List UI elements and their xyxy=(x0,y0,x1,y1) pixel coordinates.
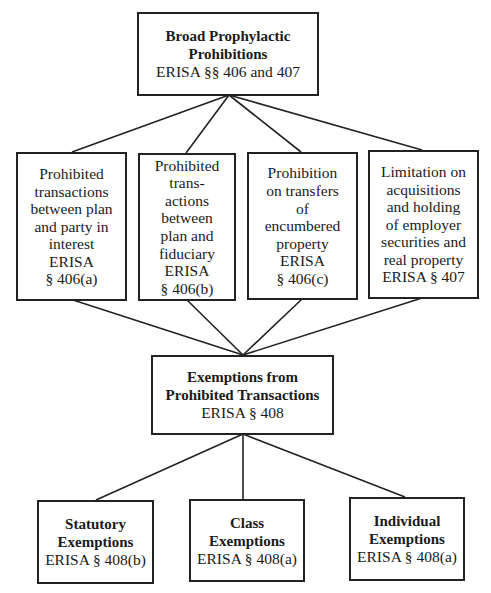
connector-hub-to-statutory xyxy=(96,434,243,500)
exemption-box-statutory: Statutory Exemptions ERISA § 408(b) xyxy=(37,500,154,584)
prohibition-406a-line: between plan xyxy=(30,200,112,218)
hub-subtitle: ERISA § 408 xyxy=(201,404,284,422)
prohibition-box-407: Limitation on acquisitions and holding o… xyxy=(368,150,479,299)
individual-title-line-2: Exemptions xyxy=(369,530,445,548)
prohibition-407-line: securities and xyxy=(381,233,466,251)
prohibition-406c-line: of xyxy=(296,200,309,218)
root-box-broad-prophylactic-prohibitions: Broad Prophylactic Prohibitions ERISA §§… xyxy=(137,12,319,96)
prohibition-box-406b: Prohibited trans- actions between plan a… xyxy=(138,153,236,301)
prohibition-406a-line: Prohibited xyxy=(39,165,104,183)
prohibition-406b-line: plan and xyxy=(161,227,214,245)
class-title-line-2: Exemptions xyxy=(209,532,285,550)
statutory-title-line-2: Exemptions xyxy=(58,533,134,551)
hub-title-line-2: Prohibited Transactions xyxy=(166,386,320,404)
root-title-line-2: Prohibitions xyxy=(189,45,268,63)
prohibition-406c-line: encumbered xyxy=(265,217,341,235)
prohibition-407-line: of employer xyxy=(386,216,461,234)
prohibition-406c-line: on transfers xyxy=(266,182,339,200)
connector-407-to-hub xyxy=(243,298,422,355)
connector-406a-to-hub xyxy=(73,300,243,355)
prohibition-407-line: ERISA § 407 xyxy=(382,268,465,286)
root-subtitle: ERISA §§ 406 and 407 xyxy=(156,63,300,81)
exemptions-hub-box: Exemptions from Prohibited Transactions … xyxy=(151,355,334,435)
prohibition-406c-line: § 406(c) xyxy=(276,270,328,288)
hub-title-line-1: Exemptions from xyxy=(187,368,298,386)
prohibition-407-line: real property xyxy=(384,251,464,269)
class-subtitle: ERISA § 408(a) xyxy=(197,550,297,568)
prohibition-406c-line: property xyxy=(276,235,329,253)
prohibition-406b-line: Prohibited xyxy=(155,157,220,175)
prohibition-406b-line: ERISA xyxy=(165,262,210,280)
connector-root-to-406c xyxy=(229,95,301,152)
connector-root-to-407 xyxy=(229,95,422,150)
prohibition-407-line: Limitation on xyxy=(381,163,466,181)
prohibition-406c-line: ERISA xyxy=(280,252,325,270)
connector-406c-to-hub xyxy=(243,299,302,355)
individual-title-line-1: Individual xyxy=(374,512,441,530)
prohibition-box-406c: Prohibition on transfers of encumbered p… xyxy=(247,152,358,300)
individual-subtitle: ERISA § 408(a) xyxy=(357,548,457,566)
prohibition-406b-line: actions xyxy=(165,192,209,210)
prohibition-406a-line: transactions xyxy=(34,183,108,201)
exemption-box-class: Class Exemptions ERISA § 408(a) xyxy=(189,499,305,582)
prohibition-407-line: acquisitions xyxy=(386,181,460,199)
connector-root-to-406b xyxy=(186,95,229,153)
prohibition-406a-line: interest xyxy=(49,235,95,253)
prohibition-406a-line: § 406(a) xyxy=(45,270,97,288)
prohibition-406a-line: and party in xyxy=(34,218,108,236)
prohibition-406c-line: Prohibition xyxy=(268,164,338,182)
class-title-line-1: Class xyxy=(230,514,264,532)
connector-hub-to-individual xyxy=(243,434,405,497)
exemption-box-individual: Individual Exemptions ERISA § 408(a) xyxy=(349,497,465,581)
prohibition-box-406a: Prohibited transactions between plan and… xyxy=(16,152,127,301)
prohibition-406b-line: trans- xyxy=(169,174,204,192)
prohibition-406a-line: ERISA xyxy=(49,253,94,271)
prohibition-407-line: and holding xyxy=(387,198,461,216)
connector-root-to-406a xyxy=(72,95,229,152)
root-title-line-1: Broad Prophylactic xyxy=(166,27,291,45)
statutory-title-line-1: Statutory xyxy=(65,515,126,533)
prohibition-406b-line: § 406(b) xyxy=(161,280,214,298)
statutory-subtitle: ERISA § 408(b) xyxy=(45,551,146,569)
prohibition-406b-line: between xyxy=(161,209,213,227)
prohibition-406b-line: fiduciary xyxy=(159,245,215,263)
